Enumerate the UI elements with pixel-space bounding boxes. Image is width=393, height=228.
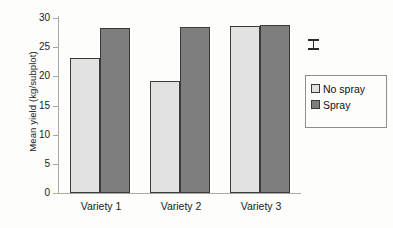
legend-item-no-spray: No spray bbox=[311, 81, 386, 96]
error-bar-cap-top bbox=[308, 39, 319, 41]
legend-label-no-spray: No spray bbox=[323, 83, 365, 95]
y-tick-label-20: 20 bbox=[28, 71, 50, 81]
bar-variety-1-spray bbox=[100, 28, 130, 193]
y-tick-label-30: 30 bbox=[28, 13, 50, 23]
y-tick-label-5: 5 bbox=[28, 159, 50, 169]
y-tick-label-15: 15 bbox=[28, 101, 50, 111]
legend-label-spray: Spray bbox=[323, 99, 350, 111]
y-tick-label-10: 10 bbox=[28, 130, 50, 140]
x-tick-label-variety-2: Variety 2 bbox=[136, 200, 226, 212]
x-tick-label-variety-1: Variety 1 bbox=[56, 200, 146, 212]
bar-variety-3-spray bbox=[260, 25, 290, 193]
bar-variety-2-spray bbox=[180, 27, 210, 193]
legend-item-spray: Spray bbox=[311, 97, 386, 112]
bar-variety-2-no-spray bbox=[150, 81, 180, 193]
bar-group-variety-3 bbox=[225, 16, 297, 193]
legend: No spray Spray bbox=[305, 75, 387, 128]
bar-group-variety-2 bbox=[145, 16, 217, 193]
legend-swatch-spray-icon bbox=[311, 100, 320, 109]
bar-chart: Mean yield (kg/subplot) 30 25 20 15 10 5… bbox=[0, 0, 393, 228]
y-tick-label-25: 25 bbox=[28, 42, 50, 52]
x-axis-line bbox=[58, 193, 301, 194]
bar-variety-3-no-spray bbox=[230, 26, 260, 193]
error-bar-cap-bottom bbox=[308, 48, 319, 50]
y-tick-label-0: 0 bbox=[28, 188, 50, 198]
bar-group-variety-1 bbox=[65, 16, 137, 193]
legend-swatch-no-spray-icon bbox=[311, 84, 320, 93]
bar-variety-1-no-spray bbox=[70, 58, 100, 193]
x-tick-label-variety-3: Variety 3 bbox=[216, 200, 306, 212]
lsd-error-bar bbox=[308, 39, 319, 50]
plot-area bbox=[59, 16, 301, 193]
